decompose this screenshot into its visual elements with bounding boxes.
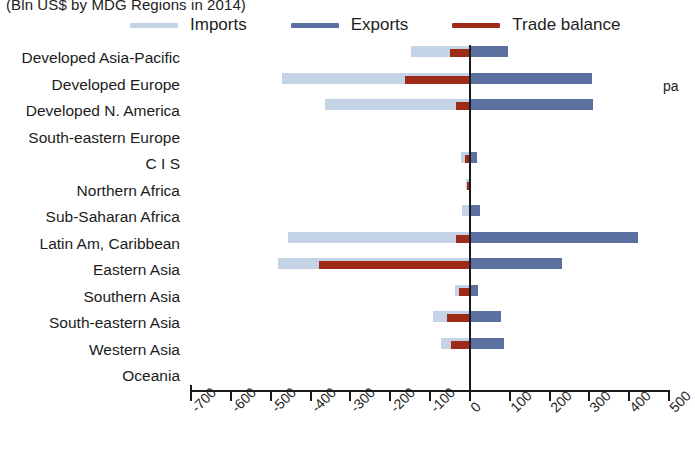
legend-swatch-imports [130, 23, 178, 28]
bar-trade-balance [456, 102, 469, 110]
bar-exports [469, 311, 502, 322]
bar-exports [469, 258, 563, 269]
category-label: South-eastern Asia [0, 310, 184, 337]
plot-area [190, 45, 668, 390]
bar-exports [469, 99, 593, 110]
bar-row [190, 98, 668, 125]
legend-item-imports: Imports [130, 15, 247, 35]
category-label: Developed Europe [0, 72, 184, 99]
bar-exports [469, 338, 504, 349]
legend-label-imports: Imports [190, 15, 247, 35]
chart-legend: Imports Exports Trade balance [130, 15, 664, 35]
category-label: Eastern Asia [0, 257, 184, 284]
axis-tick-label: 0 [467, 398, 484, 415]
bar-trade-balance [451, 341, 469, 349]
bar-trade-balance [405, 76, 469, 84]
bar-row [190, 72, 668, 99]
bar-trade-balance [456, 235, 469, 243]
bar-row [190, 257, 668, 284]
bar-row [190, 125, 668, 152]
bar-exports [469, 232, 638, 243]
category-label: Northern Africa [0, 178, 184, 205]
bar-row [190, 178, 668, 205]
bar-imports [462, 205, 469, 216]
category-label: Oceania [0, 363, 184, 390]
bar-exports [469, 46, 508, 57]
chart-root: (Bln US$ by MDG Regions in 2014) pa Impo… [0, 0, 695, 454]
bar-imports [288, 232, 469, 243]
bar-exports [469, 73, 592, 84]
category-label: Western Asia [0, 337, 184, 364]
bar-row [190, 337, 668, 364]
legend-swatch-trade-balance [452, 23, 500, 28]
legend-item-exports: Exports [291, 15, 409, 35]
bar-imports [325, 99, 468, 110]
bar-row [190, 284, 668, 311]
legend-label-trade-balance: Trade balance [512, 15, 620, 35]
bar-row [190, 231, 668, 258]
legend-swatch-exports [291, 23, 339, 28]
category-label: Latin Am, Caribbean [0, 231, 184, 258]
bar-trade-balance [447, 314, 469, 322]
category-label: Sub-Saharan Africa [0, 204, 184, 231]
legend-item-trade-balance: Trade balance [452, 15, 620, 35]
bar-row [190, 310, 668, 337]
axis-tick-label: 500 [666, 387, 694, 415]
category-label: Developed Asia-Pacific [0, 45, 184, 72]
bar-trade-balance [319, 261, 468, 269]
bar-trade-balance [459, 288, 469, 296]
bar-row [190, 151, 668, 178]
category-label: C I S [0, 151, 184, 178]
category-label: South-eastern Europe [0, 125, 184, 152]
bar-rows [190, 45, 668, 390]
category-axis-labels: Developed Asia-PacificDeveloped EuropeDe… [0, 45, 184, 390]
category-label: Southern Asia [0, 284, 184, 311]
bar-trade-balance [450, 49, 469, 57]
bar-row [190, 363, 668, 390]
bar-row [190, 45, 668, 72]
zero-axis-line [469, 45, 471, 390]
category-label: Developed N. America [0, 98, 184, 125]
legend-label-exports: Exports [351, 15, 409, 35]
value-axis: -700-600-500-400-300-200-100010020030040… [190, 390, 668, 391]
chart-title: (Bln US$ by MDG Regions in 2014) [6, 0, 246, 13]
bar-row [190, 204, 668, 231]
